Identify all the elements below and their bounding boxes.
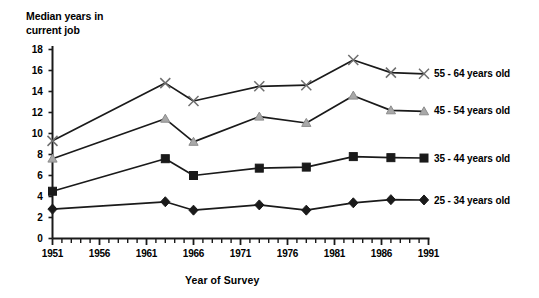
data-series <box>48 195 429 216</box>
y-tick-label: 8 <box>21 149 43 160</box>
y-axis-title: Median years in current job <box>26 9 103 37</box>
x-tick-label: 1951 <box>33 248 73 259</box>
legend-item-label: 35 - 44 years old <box>434 153 510 164</box>
x-tick-label: 1971 <box>221 248 261 259</box>
y-tick-label: 16 <box>21 65 43 76</box>
y-tick-label: 18 <box>21 44 43 55</box>
y-tick-label: 14 <box>21 86 43 97</box>
legend-item-label: 25 - 34 years old <box>434 195 510 206</box>
y-tick-label: 4 <box>21 191 43 202</box>
data-series <box>48 55 430 146</box>
line-chart-figure: Median years in current job Year of Surv… <box>0 0 539 298</box>
y-tick-label: 0 <box>21 233 43 244</box>
legend-item-label: 55 - 64 years old <box>434 68 510 79</box>
x-axis-ticks <box>53 239 429 246</box>
data-series <box>49 153 429 196</box>
y-tick-label: 10 <box>21 128 43 139</box>
data-series <box>48 91 429 162</box>
x-tick-label: 1956 <box>80 248 120 259</box>
x-axis-title: Year of Survey <box>185 274 259 286</box>
x-tick-label: 1981 <box>315 248 355 259</box>
legend-item-label: 45 - 54 years old <box>434 105 510 116</box>
y-tick-label: 2 <box>21 212 43 223</box>
x-tick-label: 1991 <box>409 248 449 259</box>
x-tick-label: 1961 <box>127 248 167 259</box>
y-tick-label: 12 <box>21 107 43 118</box>
axis-lines <box>53 46 430 239</box>
x-tick-label: 1966 <box>174 248 214 259</box>
x-tick-label: 1976 <box>268 248 308 259</box>
x-tick-label: 1986 <box>362 248 402 259</box>
y-tick-label: 6 <box>21 170 43 181</box>
